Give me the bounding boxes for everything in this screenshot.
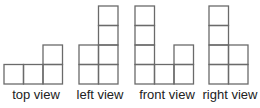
grid-square: [209, 6, 229, 26]
grid-square: [174, 45, 194, 65]
top-view-label: top view: [8, 87, 64, 102]
grid-square: [135, 26, 155, 46]
grid-square: [79, 45, 99, 65]
grid-square: [24, 65, 44, 85]
grid-square: [43, 65, 63, 85]
right-view-label: right view: [199, 87, 260, 102]
left-view-label: left view: [72, 87, 128, 102]
left-view: [79, 6, 118, 84]
right-view: [209, 6, 248, 84]
grid-square: [229, 65, 249, 85]
grid-square: [229, 45, 249, 65]
front-view-label: front view: [135, 87, 199, 102]
top-view: [4, 45, 63, 84]
grid-square: [209, 26, 229, 46]
grid-square: [209, 65, 229, 85]
grid-square: [155, 65, 175, 85]
grid-square: [135, 65, 155, 85]
grid-square: [99, 45, 119, 65]
grid-square: [135, 6, 155, 26]
grid-square: [135, 45, 155, 65]
front-view: [135, 6, 194, 84]
grid-square: [174, 65, 194, 85]
grid-square: [43, 45, 63, 65]
grid-square: [99, 26, 119, 46]
grid-square: [99, 6, 119, 26]
grid-square: [99, 65, 119, 85]
grid-square: [79, 65, 99, 85]
grid-square: [4, 65, 24, 85]
grid-square: [209, 45, 229, 65]
